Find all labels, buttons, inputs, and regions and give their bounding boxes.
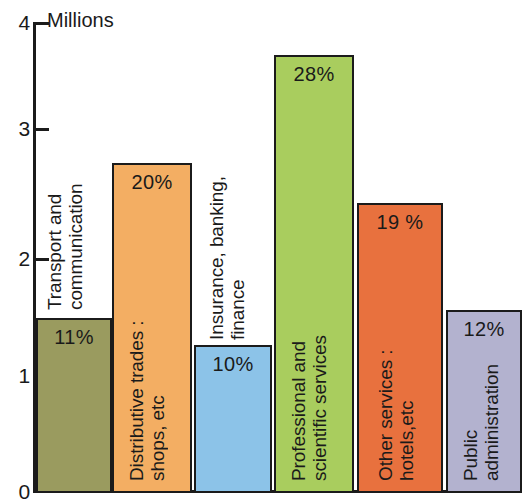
bar-insurance-banking-finance[interactable]: 10% [194, 345, 272, 493]
bar-value-label: 11% [38, 327, 110, 347]
y-tick-label-0: 0 [8, 481, 30, 502]
bar-distributive-trades[interactable]: 20% Distributive trades : shops, etc [112, 163, 192, 493]
bar-value-label: 28% [276, 64, 352, 84]
bar-value-label: 20% [114, 172, 190, 192]
bar-value-label: 10% [196, 354, 270, 374]
bar-professional-and-scientific-services[interactable]: 28% Professional and scientific services [274, 55, 354, 493]
y-tick-label-1: 1 [8, 365, 30, 386]
y-axis-unit-label: Millions [47, 10, 114, 30]
y-tick-label-2: 2 [8, 248, 30, 269]
y-tick-label-4: 4 [8, 12, 30, 33]
bar-value-label: 19 % [359, 212, 441, 232]
bar-other-services-hotels[interactable]: 19 % Other services : hotels,etc [357, 203, 443, 493]
bar-category-label-professional-and-scientific-services: Professional and scientific services [288, 286, 330, 481]
bar-public-administration[interactable]: 12% Public administration [446, 310, 522, 493]
bar-category-label-transport-and-communication: Transport and communication [44, 160, 86, 310]
bar-category-label-public-administration: Public administration [460, 331, 502, 481]
y-tick-mark-4 [36, 22, 49, 25]
y-tick-mark-3 [36, 128, 49, 131]
bar-category-label-other-services-hotels: Other services : hotels,etc [375, 316, 417, 481]
y-tick-label-3: 3 [8, 118, 30, 139]
bar-transport-and-communication[interactable]: 11% [36, 318, 112, 493]
bar-category-label-insurance-banking-finance: Insurance, banking, finance [206, 155, 248, 340]
bar-category-label-distributive-trades: Distributive trades : shops, etc [126, 291, 168, 481]
